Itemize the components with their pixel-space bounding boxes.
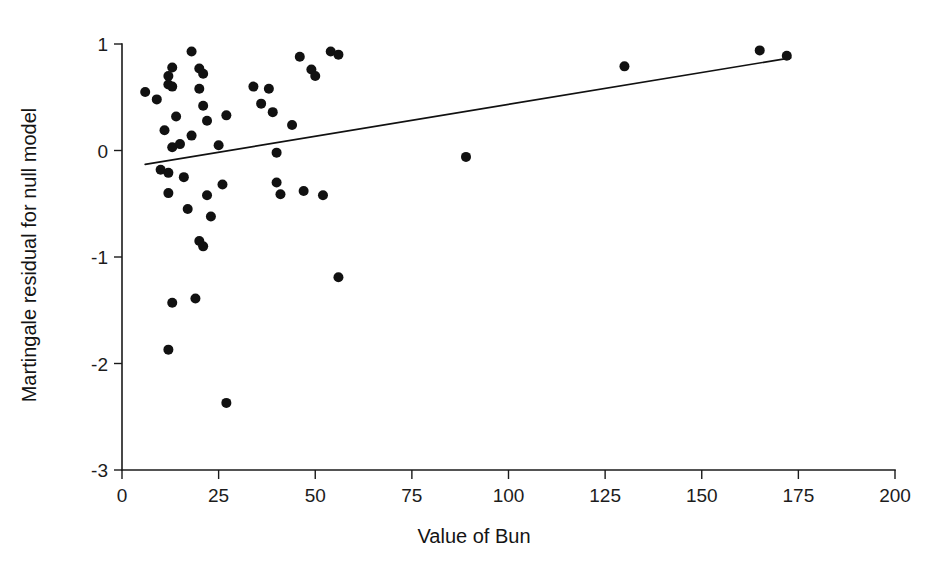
data-point	[221, 110, 231, 120]
x-axis-title: Value of Bun	[417, 525, 530, 547]
x-tick-label: 25	[208, 485, 229, 506]
data-point	[198, 69, 208, 79]
data-point	[190, 294, 200, 304]
x-tick-label: 0	[117, 485, 128, 506]
x-axis-ticks: 0255075100125150175200	[117, 470, 911, 506]
data-point	[221, 398, 231, 408]
data-point	[167, 82, 177, 92]
data-point	[217, 180, 227, 190]
data-point	[461, 152, 471, 162]
y-tick-label: 1	[97, 34, 108, 55]
data-point	[163, 345, 173, 355]
x-tick-label: 200	[879, 485, 911, 506]
data-point	[782, 51, 792, 61]
data-point	[202, 190, 212, 200]
data-points	[140, 45, 792, 408]
data-point	[333, 272, 343, 282]
data-point	[187, 46, 197, 56]
data-point	[272, 148, 282, 158]
data-point	[179, 172, 189, 182]
x-tick-label: 150	[686, 485, 718, 506]
trend-line-path	[145, 58, 790, 165]
data-point	[175, 139, 185, 149]
data-point	[163, 168, 173, 178]
data-point	[198, 241, 208, 251]
x-tick-label: 50	[305, 485, 326, 506]
data-point	[619, 61, 629, 71]
data-point	[163, 71, 173, 81]
y-tick-label: -1	[91, 247, 108, 268]
data-point	[171, 111, 181, 121]
data-point	[310, 71, 320, 81]
data-point	[275, 189, 285, 199]
data-point	[167, 62, 177, 72]
y-axis-title: Martingale residual for null model	[18, 108, 40, 403]
data-point	[318, 190, 328, 200]
data-point	[264, 84, 274, 94]
data-point	[194, 84, 204, 94]
data-point	[140, 87, 150, 97]
data-point	[198, 101, 208, 111]
x-tick-label: 75	[401, 485, 422, 506]
y-tick-label: -3	[91, 460, 108, 481]
regression-line	[145, 58, 790, 165]
x-tick-label: 125	[589, 485, 621, 506]
data-point	[268, 107, 278, 117]
data-point	[272, 177, 282, 187]
data-point	[183, 204, 193, 214]
data-point	[163, 188, 173, 198]
data-point	[167, 298, 177, 308]
scatter-plot: 10-1-2-3 0255075100125150175200 Value of…	[0, 0, 948, 568]
data-point	[287, 120, 297, 130]
data-point	[206, 212, 216, 222]
y-tick-label: 0	[97, 141, 108, 162]
data-point	[152, 94, 162, 104]
x-tick-label: 100	[493, 485, 525, 506]
data-point	[755, 45, 765, 55]
data-point	[248, 82, 258, 92]
y-axis-ticks: 10-1-2-3	[91, 34, 122, 481]
figure-container: 10-1-2-3 0255075100125150175200 Value of…	[0, 0, 948, 568]
data-point	[187, 131, 197, 141]
data-point	[160, 125, 170, 135]
data-point	[214, 140, 224, 150]
data-point	[333, 50, 343, 60]
data-point	[299, 186, 309, 196]
data-point	[256, 99, 266, 109]
data-point	[202, 116, 212, 126]
x-tick-label: 175	[783, 485, 815, 506]
data-point	[295, 52, 305, 62]
y-tick-label: -2	[91, 354, 108, 375]
